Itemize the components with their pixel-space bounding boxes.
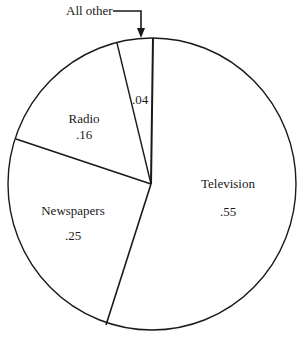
slice-boundary-top bbox=[151, 38, 153, 184]
callout-arrow-line bbox=[113, 11, 141, 30]
slice-boundary-newspapers-television bbox=[106, 184, 151, 325]
pie-chart bbox=[0, 0, 301, 338]
slice-boundary-radio-newspapers bbox=[16, 139, 151, 184]
callout-arrow-head-icon bbox=[137, 28, 145, 38]
allother-value-label: .04 bbox=[132, 92, 148, 107]
radio-value-label: .16 bbox=[60, 127, 108, 142]
radio-label: Radio bbox=[60, 111, 108, 126]
television-label: Television bbox=[193, 176, 263, 191]
allother-callout-label: All other bbox=[66, 3, 113, 18]
newspapers-label: Newspapers bbox=[40, 203, 106, 218]
television-value-label: .55 bbox=[193, 204, 263, 219]
newspapers-value-label: .25 bbox=[40, 228, 106, 243]
slice-boundary-allother-radio bbox=[117, 43, 151, 184]
